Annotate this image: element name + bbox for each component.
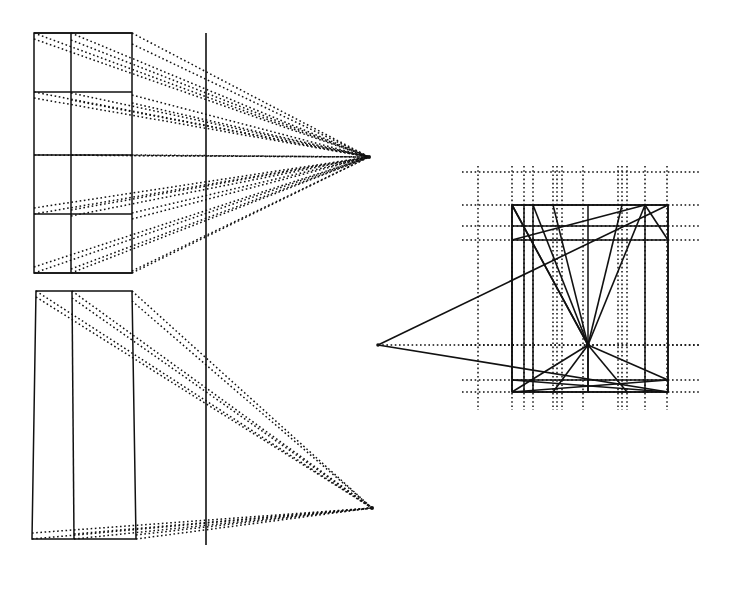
upper-perspective-ray bbox=[34, 157, 369, 267]
upper-perspective-ray bbox=[132, 157, 369, 213]
lower-perspective-ray bbox=[74, 508, 372, 539]
upper-perspective-ray bbox=[34, 157, 369, 214]
upper-perspective-ray bbox=[132, 33, 369, 157]
upper-perspective-ray bbox=[132, 103, 369, 157]
left-perspective-rays bbox=[32, 33, 372, 539]
left-construction-panel bbox=[32, 33, 374, 545]
lower-vanishing-point bbox=[370, 506, 374, 510]
convergent-ray bbox=[588, 345, 668, 380]
lower-plan-box bbox=[32, 291, 136, 539]
perspective-construction-svg bbox=[0, 0, 736, 599]
diagram-canvas bbox=[0, 0, 736, 599]
lower-perspective-ray bbox=[72, 291, 372, 508]
lower-box-outline bbox=[32, 291, 136, 539]
upper-perspective-ray bbox=[71, 40, 369, 157]
right-diagonal-lines bbox=[378, 205, 668, 392]
lower-perspective-ray bbox=[36, 291, 372, 508]
diagonal-line bbox=[512, 205, 645, 240]
upper-perspective-ray bbox=[71, 157, 369, 216]
center-convergence-point bbox=[586, 343, 590, 347]
upper-perspective-ray bbox=[34, 157, 369, 273]
upper-perspective-ray bbox=[132, 157, 369, 271]
right-construction-panel bbox=[376, 166, 700, 410]
lower-perspective-ray bbox=[132, 291, 372, 508]
upper-perspective-ray bbox=[132, 95, 369, 157]
lower-perspective-ray bbox=[132, 301, 372, 508]
upper-perspective-ray bbox=[34, 33, 369, 157]
upper-perspective-ray bbox=[34, 39, 369, 157]
upper-perspective-ray bbox=[71, 157, 369, 269]
right-left-vanishing-point bbox=[376, 343, 380, 347]
lower-perspective-ray bbox=[72, 298, 372, 508]
lower-perspective-ray bbox=[74, 508, 372, 534]
upper-perspective-ray bbox=[132, 44, 369, 157]
upper-perspective-ray bbox=[71, 33, 369, 157]
upper-vanishing-point bbox=[367, 155, 371, 159]
lower-perspective-ray bbox=[36, 297, 372, 508]
lower-box-divider bbox=[72, 291, 74, 539]
